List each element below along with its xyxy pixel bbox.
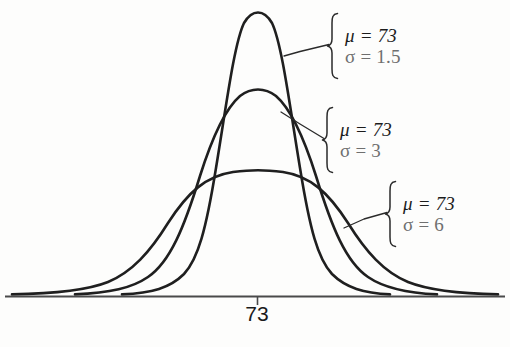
- callout-text-sigma-6: μ = 73 σ = 6: [403, 193, 455, 236]
- mu-label-2: μ = 73: [340, 119, 392, 140]
- callout-sigma-1-5: μ = 73 σ = 1.5: [326, 12, 401, 80]
- mu-label-1: μ = 73: [345, 25, 401, 46]
- callout-text-sigma-3: μ = 73 σ = 3: [340, 119, 392, 162]
- leader-line-sigma-3: [281, 112, 324, 139]
- sigma-label-3: σ = 6: [403, 214, 455, 235]
- x-axis-tick-label: 73: [233, 302, 281, 326]
- leader-line-sigma-6: [344, 213, 387, 229]
- callout-text-sigma-1-5: μ = 73 σ = 1.5: [345, 25, 401, 68]
- mu-label-3: μ = 73: [403, 193, 455, 214]
- sigma-label-1: σ = 1.5: [345, 46, 401, 67]
- sigma-label-2: σ = 3: [340, 140, 392, 161]
- left-curly-brace-icon: [384, 180, 398, 248]
- callout-sigma-3: μ = 73 σ = 3: [321, 106, 392, 174]
- leader-line-sigma-1-5: [284, 45, 329, 57]
- distribution-plot: [0, 0, 510, 347]
- left-curly-brace-icon: [321, 106, 335, 174]
- callout-sigma-6: μ = 73 σ = 6: [384, 180, 455, 248]
- left-curly-brace-icon: [326, 12, 340, 80]
- normal-curves-figure: μ = 73 σ = 1.5 μ = 73 σ = 3 μ = 73 σ = 6…: [0, 0, 510, 347]
